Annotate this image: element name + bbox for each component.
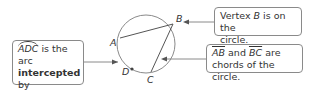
arrowhead-icon bbox=[161, 57, 167, 62]
label-b: B bbox=[176, 13, 183, 24]
arc-adc: ADC bbox=[18, 43, 38, 55]
callout-chords: AB and BC are chords of the circle. bbox=[206, 44, 303, 73]
arrowhead-icon bbox=[183, 20, 189, 25]
point-d bbox=[130, 67, 133, 70]
chord-bc bbox=[151, 24, 173, 72]
label-a: A bbox=[110, 37, 117, 48]
callout-intercepted-arc: ADC is the arc intercepted by ∠ABC. bbox=[12, 40, 84, 85]
circle bbox=[117, 15, 175, 73]
label-c: C bbox=[147, 74, 154, 85]
chord-ab bbox=[120, 24, 173, 38]
label-d: D bbox=[122, 66, 129, 77]
callout-vertex: Vertex B is on the circle. bbox=[214, 7, 302, 36]
arrowhead-icon bbox=[112, 60, 118, 65]
